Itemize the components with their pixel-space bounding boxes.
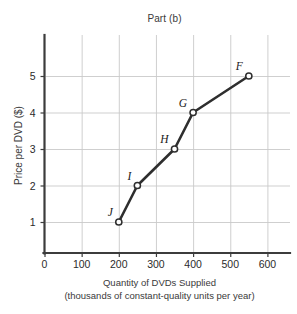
y-tick-label: 3 (30, 143, 36, 155)
point-label-I: I (127, 170, 133, 182)
x-tick-label: 100 (73, 258, 91, 270)
data-point-H (171, 146, 177, 152)
data-point-J (116, 219, 122, 225)
x-tick-label: 600 (259, 258, 277, 270)
plot-area: 12345 0100200300400500600 JIHGF (0, 0, 297, 314)
point-label-J: J (108, 206, 114, 218)
point-label-H: H (159, 133, 169, 145)
y-tick-label: 5 (30, 70, 36, 82)
y-tick-label: 2 (30, 180, 36, 192)
x-tick-label: 0 (42, 258, 48, 270)
x-tick-label: 300 (147, 258, 165, 270)
x-axis-tick-labels: 0100200300400500600 (42, 258, 277, 270)
point-label-G: G (179, 97, 188, 109)
x-tick-label: 200 (110, 258, 128, 270)
x-tick-label: 500 (221, 258, 239, 270)
data-point-I (134, 182, 140, 188)
x-axis-title-line1: Quantity of DVDs Supplied (103, 277, 216, 288)
y-tick-label: 1 (30, 216, 36, 228)
data-point-G (190, 109, 196, 115)
x-tick-label: 400 (184, 258, 202, 270)
supply-curve-point-labels: JIHGF (108, 60, 244, 218)
x-axis-title-line2: (thousands of constant-quality units per… (64, 290, 254, 301)
point-label-F: F (235, 60, 244, 72)
y-axis-tick-labels: 12345 (30, 70, 36, 228)
supply-curve-figure: Part (b) 12345 0100200300400500600 JIHGF… (0, 0, 297, 314)
y-tick-label: 4 (30, 107, 36, 119)
y-axis-title: Price per DVD ($) (13, 76, 24, 216)
x-axis-title: Quantity of DVDs Supplied(thousands of c… (0, 276, 297, 302)
data-point-F (246, 73, 252, 79)
